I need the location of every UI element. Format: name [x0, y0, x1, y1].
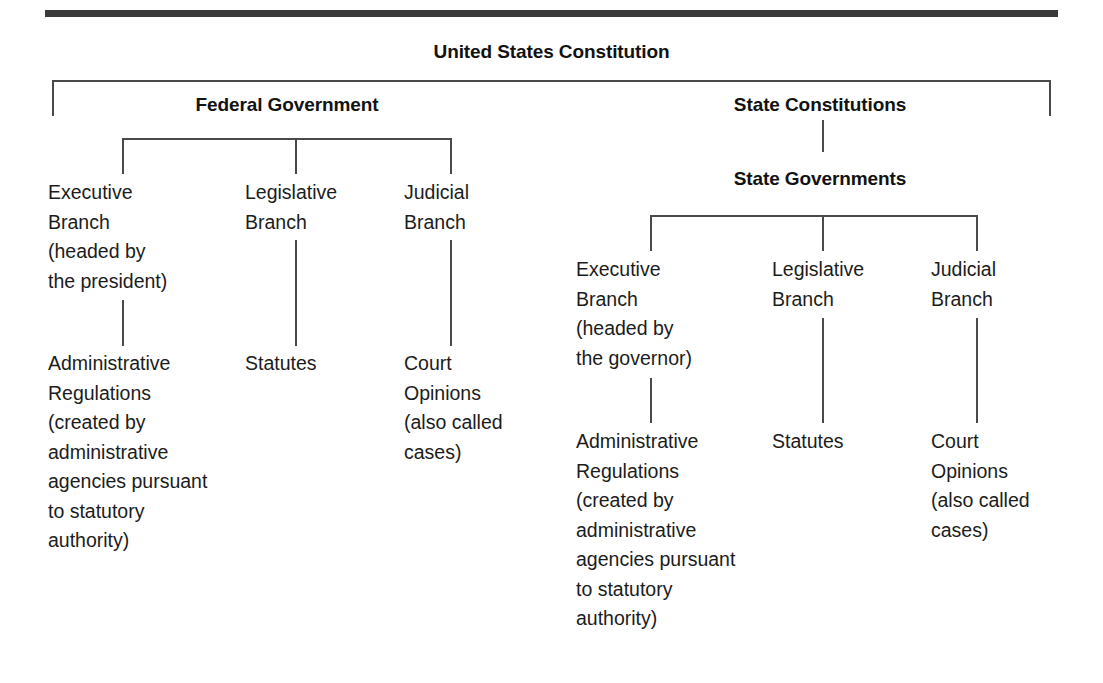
diagram-canvas: United States Constitution Federal Gover… — [0, 0, 1103, 683]
state-bracket-drop-judicial — [976, 215, 978, 251]
root-bracket-horizontal — [52, 80, 1051, 82]
federal-bracket-drop-legislative — [295, 138, 297, 174]
state-constitutions-to-governments-connector — [822, 120, 824, 152]
state-bracket-drop-executive — [650, 215, 652, 251]
state-executive-connector — [650, 378, 652, 423]
state-executive-branch-label: Executive Branch (headed by the governor… — [576, 255, 786, 373]
federal-legislative-connector — [295, 240, 297, 346]
federal-legislative-branch-label: Legislative Branch — [245, 178, 405, 237]
federal-executive-connector — [122, 300, 124, 346]
federal-branch-bracket-horizontal — [122, 138, 452, 140]
state-administrative-regulations-label: Administrative Regulations (created by a… — [576, 427, 801, 634]
state-legislative-branch-label: Legislative Branch — [772, 255, 932, 314]
diagram-title: United States Constitution — [0, 41, 1103, 63]
federal-administrative-regulations-label: Administrative Regulations (created by a… — [48, 349, 268, 556]
federal-statutes-label: Statutes — [245, 349, 405, 379]
federal-bracket-drop-judicial — [450, 138, 452, 174]
federal-judicial-branch-label: Judicial Branch — [404, 178, 544, 237]
federal-executive-branch-label: Executive Branch (headed by the presiden… — [48, 178, 248, 296]
state-bracket-drop-legislative — [822, 215, 824, 251]
state-judicial-connector — [976, 318, 978, 423]
state-court-opinions-label: Court Opinions (also called cases) — [931, 427, 1086, 545]
state-constitutions-heading: State Constitutions — [590, 94, 1050, 116]
federal-government-heading: Federal Government — [52, 94, 522, 116]
state-statutes-label: Statutes — [772, 427, 932, 457]
federal-bracket-drop-executive — [122, 138, 124, 174]
federal-judicial-connector — [450, 240, 452, 346]
state-branch-bracket-horizontal — [650, 215, 978, 217]
state-judicial-branch-label: Judicial Branch — [931, 255, 1071, 314]
state-governments-heading: State Governments — [590, 168, 1050, 190]
federal-court-opinions-label: Court Opinions (also called cases) — [404, 349, 554, 467]
top-rule-divider — [45, 10, 1058, 17]
state-legislative-connector — [822, 318, 824, 423]
